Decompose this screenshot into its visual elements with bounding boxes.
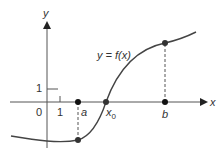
point-b-label: b <box>162 108 168 120</box>
y-axis-arrow-icon <box>43 21 51 29</box>
point-a-axis <box>75 99 81 105</box>
y-axis-label: y <box>42 7 50 19</box>
curve-label: y = f(x) <box>96 49 131 61</box>
x-axis-label: x <box>209 96 216 108</box>
point-fb <box>162 40 168 46</box>
origin-label: 0 <box>36 106 42 118</box>
y-one-label: 1 <box>36 82 42 94</box>
point-x0 <box>103 99 109 105</box>
x0-subscript: 0 <box>112 112 117 121</box>
point-a-label: a <box>81 106 87 118</box>
x-axis-arrow-icon <box>200 98 208 106</box>
point-x0-label: x0 <box>105 106 117 121</box>
point-fa <box>75 137 81 143</box>
x-one-label: 1 <box>57 106 63 118</box>
intermediate-value-diagram: y x 0 1 1 y = f(x) a x0 b <box>0 0 219 157</box>
point-b-axis <box>162 99 168 105</box>
